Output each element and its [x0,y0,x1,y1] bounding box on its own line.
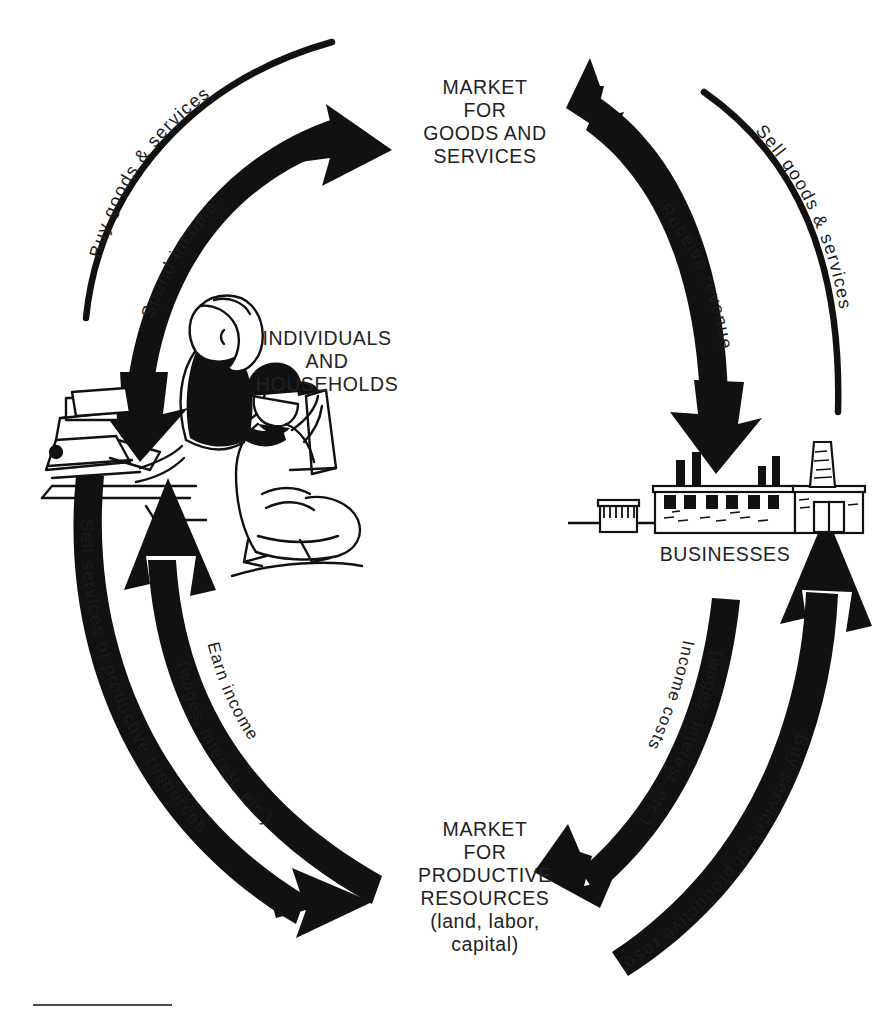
node-label-businesses: BUSINESSES [620,543,830,566]
flow-label-spend-income: Spend income [137,196,222,321]
circular-flow-diagram: .thick{fill:#111;stroke:none;} .thin{fil… [0,0,888,1033]
node-label-individuals-and-households: INDIVIDUALS AND HOUSEHOLDS [232,327,422,396]
flow-label-sell-goods-services: Sell goods & services [752,121,856,312]
footer-rule [33,1004,172,1006]
node-label-market-goods-and-services: MARKET FOR GOODS AND SERVICES [390,76,580,168]
flow-label-receive-revenue: Receive revenue [656,199,737,351]
node-label-market-for-productive-resources: MARKET FOR PRODUCTIVE RESOURCES (land, l… [380,818,590,956]
